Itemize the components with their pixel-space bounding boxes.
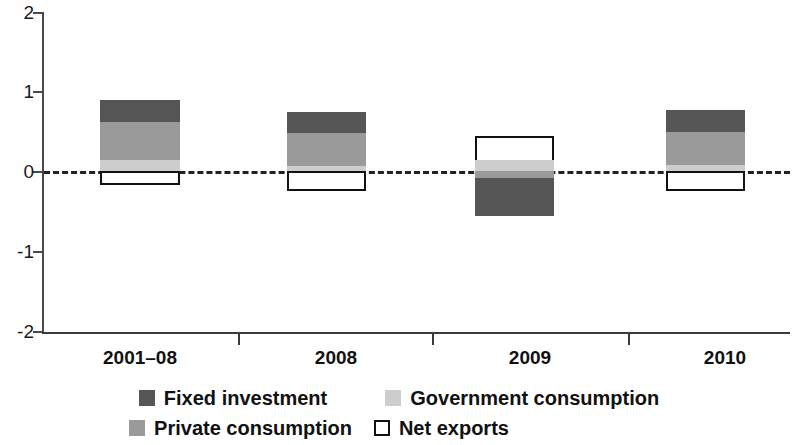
bar-segment-private-consumption[interactable]	[475, 171, 554, 178]
legend-swatch-private-consumption-icon	[129, 420, 145, 436]
legend-swatch-fixed-investment-icon	[139, 390, 155, 406]
bar-segment-fixed-investment[interactable]	[475, 178, 554, 216]
legend-label-net-exports: Net exports	[399, 417, 509, 439]
plot-area: 2 1 0 -1 -2	[0, 0, 798, 380]
legend-item-net-exports[interactable]: Net exports	[374, 417, 509, 439]
x-tick-1	[238, 334, 240, 345]
bar-segment-private-consumption[interactable]	[666, 132, 745, 165]
x-axis-label-2008: 2008	[256, 347, 416, 369]
chart-legend: Fixed investment Government consumption …	[0, 383, 798, 445]
bar-segment-government-consumption[interactable]	[475, 160, 554, 171]
bar-segment-fixed-investment[interactable]	[287, 112, 366, 133]
legend-label-fixed-investment: Fixed investment	[164, 387, 327, 409]
y-axis-label-1: 1	[0, 82, 34, 101]
x-axis-label-2010: 2010	[645, 347, 798, 369]
y-tick-2	[33, 12, 43, 14]
x-axis-label-2009: 2009	[450, 347, 610, 369]
bar-group-2001-08[interactable]	[100, 12, 180, 334]
x-tick-2	[432, 334, 434, 345]
legend-item-private-consumption[interactable]: Private consumption	[129, 417, 352, 439]
y-tick-neg1	[33, 251, 43, 253]
legend-swatch-government-consumption-icon	[385, 390, 401, 406]
legend-row-2: Private consumption Net exports	[0, 413, 798, 443]
bar-segment-private-consumption[interactable]	[100, 122, 180, 164]
legend-swatch-net-exports-icon	[374, 420, 390, 436]
bar-segment-fixed-investment[interactable]	[666, 110, 745, 132]
stacked-bar-chart: 2 1 0 -1 -2	[0, 0, 798, 445]
legend-label-government-consumption: Government consumption	[410, 387, 659, 409]
bar-group-2009[interactable]	[475, 12, 554, 334]
bar-segment-private-consumption[interactable]	[287, 133, 366, 166]
bar-segment-net-exports[interactable]	[287, 171, 366, 191]
bar-group-2010[interactable]	[666, 12, 745, 334]
y-axis-label-2: 2	[0, 3, 34, 22]
bar-segment-government-consumption[interactable]	[100, 160, 180, 171]
x-tick-3	[628, 334, 630, 345]
x-axis-line	[42, 332, 790, 334]
y-axis-label-0: 0	[0, 162, 34, 181]
bar-segment-fixed-investment[interactable]	[100, 100, 180, 122]
y-tick-0	[33, 171, 43, 173]
legend-item-fixed-investment[interactable]: Fixed investment	[139, 387, 327, 409]
y-axis-label-neg1: -1	[0, 242, 34, 261]
y-axis-label-neg2: -2	[0, 322, 34, 341]
bar-segment-net-exports[interactable]	[666, 171, 745, 191]
bar-group-2008[interactable]	[287, 12, 366, 334]
bar-segment-net-exports[interactable]	[100, 171, 180, 185]
x-axis-label-2001-08: 2001–08	[60, 347, 220, 369]
legend-label-private-consumption: Private consumption	[154, 417, 352, 439]
legend-row-1: Fixed investment Government consumption	[0, 383, 798, 413]
y-tick-1	[33, 91, 43, 93]
legend-item-government-consumption[interactable]: Government consumption	[385, 387, 659, 409]
